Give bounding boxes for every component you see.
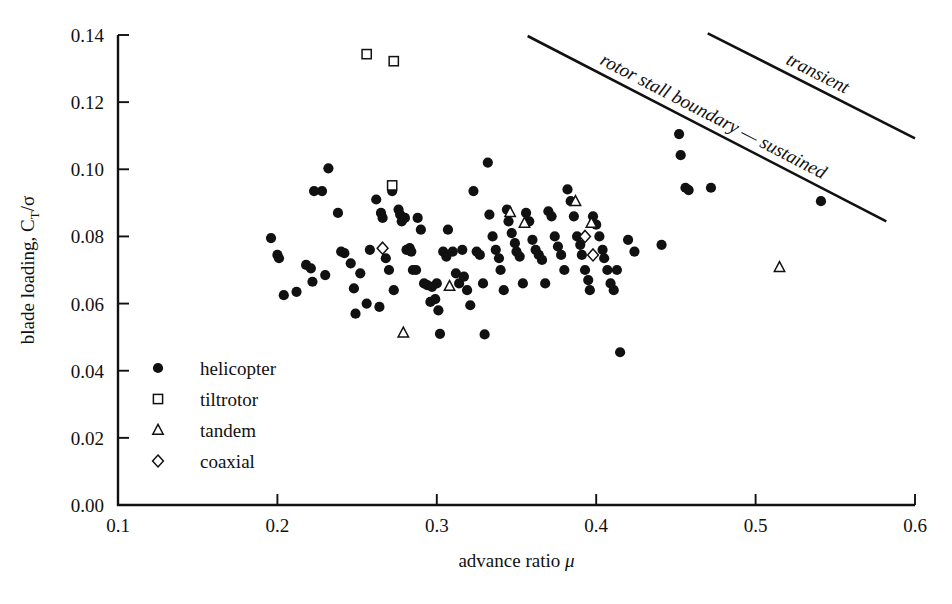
data-point-helicopter <box>615 347 625 357</box>
legend-marker-tiltrotor <box>153 394 162 403</box>
y-tick-label: 0.00 <box>71 495 104 516</box>
data-point-helicopter <box>443 225 453 235</box>
data-point-helicopter <box>413 213 423 223</box>
data-point-helicopter <box>515 251 525 261</box>
data-point-helicopter <box>389 285 399 295</box>
y-axis-title: blade loading, CT/σ <box>17 196 42 345</box>
legend-marker-tandem <box>153 424 163 434</box>
data-point-helicopter <box>577 250 587 260</box>
data-point-helicopter <box>475 250 485 260</box>
data-point-helicopter <box>307 277 317 287</box>
data-point-helicopter <box>580 265 590 275</box>
data-point-helicopter <box>623 235 633 245</box>
legend: helicoptertiltrotortandemcoaxial <box>153 358 277 472</box>
data-point-helicopter <box>291 287 301 297</box>
data-point-helicopter <box>706 183 716 193</box>
figure-caption <box>0 592 952 604</box>
data-point-helicopter <box>378 213 388 223</box>
x-axis-title: advance ratio μ <box>458 550 574 571</box>
x-tick-label: 0.1 <box>106 515 130 536</box>
y-axis-title-group: blade loading, CT/σ <box>17 196 42 345</box>
data-point-helicopter <box>274 253 284 263</box>
data-point-helicopter <box>487 231 497 241</box>
data-point-helicopter <box>433 305 443 315</box>
data-point-helicopter <box>609 285 619 295</box>
x-tick-label: 0.5 <box>744 515 768 536</box>
scatter-plot: 0.000.020.040.060.080.100.120.140.10.20.… <box>0 0 952 604</box>
sustained-boundary-line <box>528 36 887 221</box>
data-point-helicopter <box>333 208 343 218</box>
data-point-helicopter <box>550 231 560 241</box>
data-point-helicopter <box>562 184 572 194</box>
data-point-helicopter <box>374 302 384 312</box>
data-point-helicopter <box>494 253 504 263</box>
data-point-tandem <box>774 262 784 272</box>
legend-label-helicopter: helicopter <box>200 358 277 379</box>
series-tiltrotor <box>362 50 398 190</box>
legend-marker-helicopter <box>153 363 163 373</box>
data-point-helicopter <box>612 265 622 275</box>
data-point-helicopter <box>355 268 365 278</box>
data-point-helicopter <box>457 245 467 255</box>
data-point-helicopter <box>684 185 694 195</box>
data-point-helicopter <box>339 248 349 258</box>
data-point-helicopter <box>556 250 566 260</box>
data-point-helicopter <box>306 263 316 273</box>
x-tick-label: 0.4 <box>584 515 608 536</box>
data-point-helicopter <box>432 278 442 288</box>
data-point-helicopter <box>495 265 505 275</box>
data-point-helicopter <box>323 163 333 173</box>
data-point-helicopter <box>279 290 289 300</box>
data-point-helicopter <box>400 213 410 223</box>
data-point-tandem <box>398 327 408 337</box>
series-helicopter <box>266 129 826 357</box>
data-point-helicopter <box>435 329 445 339</box>
data-point-helicopter <box>459 272 469 282</box>
data-point-helicopter <box>499 285 509 295</box>
y-tick-label: 0.10 <box>71 159 104 180</box>
data-point-helicopter <box>465 300 475 310</box>
data-point-helicopter <box>602 265 612 275</box>
data-point-helicopter <box>484 210 494 220</box>
data-point-helicopter <box>537 255 547 265</box>
data-point-helicopter <box>599 253 609 263</box>
data-point-helicopter <box>559 265 569 275</box>
data-point-helicopter <box>365 245 375 255</box>
x-tick-label: 0.6 <box>903 515 927 536</box>
data-point-helicopter <box>594 231 604 241</box>
data-point-helicopter <box>816 196 826 206</box>
y-tick-label: 0.14 <box>71 25 105 46</box>
data-point-helicopter <box>362 298 372 308</box>
legend-label-tiltrotor: tiltrotor <box>200 389 259 410</box>
data-point-helicopter <box>448 246 458 256</box>
series-tandem <box>398 196 785 337</box>
data-point-helicopter <box>317 186 327 196</box>
data-point-helicopter <box>384 265 394 275</box>
data-point-helicopter <box>320 270 330 280</box>
legend-label-tandem: tandem <box>200 420 256 441</box>
data-point-helicopter <box>266 233 276 243</box>
data-point-helicopter <box>518 278 528 288</box>
legend-marker-coaxial <box>153 455 164 467</box>
data-point-tiltrotor <box>388 181 397 190</box>
data-point-tiltrotor <box>362 50 371 59</box>
data-point-helicopter <box>507 228 517 238</box>
data-point-helicopter <box>674 129 684 139</box>
data-point-coaxial <box>588 249 599 261</box>
x-tick-label: 0.2 <box>266 515 290 536</box>
data-point-tiltrotor <box>389 57 398 66</box>
y-tick-label: 0.02 <box>71 428 104 449</box>
data-point-tandem <box>444 281 454 291</box>
data-point-helicopter <box>411 265 421 275</box>
data-point-helicopter <box>583 275 593 285</box>
data-point-helicopter <box>350 309 360 319</box>
data-point-helicopter <box>540 278 550 288</box>
y-tick-label: 0.06 <box>71 294 104 315</box>
legend-label-coaxial: coaxial <box>200 451 255 472</box>
data-point-helicopter <box>585 285 595 295</box>
x-tick-label: 0.3 <box>425 515 449 536</box>
y-tick-label: 0.12 <box>71 92 104 113</box>
data-point-helicopter <box>569 211 579 221</box>
figure-container: 0.000.020.040.060.080.100.120.140.10.20.… <box>0 0 952 604</box>
data-point-helicopter <box>430 294 440 304</box>
